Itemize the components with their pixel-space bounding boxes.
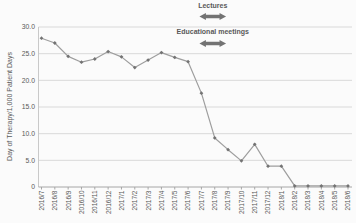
x-tick-label: 2017/4: [158, 190, 165, 210]
x-tick-label: 2016/9: [65, 190, 72, 210]
y-tick-label: 25.0: [22, 50, 35, 57]
x-tick-label: 2017/1: [118, 190, 125, 210]
y-tick-label: 10.0: [22, 130, 35, 137]
series-line: [42, 38, 349, 186]
x-tick-label: 2018/5: [331, 190, 338, 210]
x-tick-label: 2017/5: [171, 190, 178, 210]
x-tick-label: 2016/11: [91, 190, 98, 213]
chart-figure: 05.010.015.020.025.030.02016/72016/82016…: [0, 0, 356, 223]
y-tick-label: 0: [31, 183, 35, 190]
x-tick-label: 2017/12: [264, 190, 271, 214]
data-point-marker: [80, 60, 84, 64]
x-tick-label: 2016/7: [38, 190, 45, 210]
annotation-lectures-label: Lectures: [198, 1, 227, 10]
series-markers: [40, 36, 350, 188]
x-tick-label: 2017/11: [251, 190, 258, 213]
y-tick-label: 5.0: [26, 157, 36, 164]
x-tick-label: 2017/2: [131, 190, 138, 210]
x-tick-label: 2017/9: [224, 190, 231, 210]
x-tick-label: 2017/6: [184, 190, 191, 210]
x-tick-label: 2018/3: [304, 190, 311, 210]
data-point-marker: [186, 60, 190, 64]
x-tick-label: 2016/8: [51, 190, 58, 210]
x-tick-label: 2018/6: [344, 190, 351, 210]
data-point-marker: [40, 36, 44, 40]
y-tick-label: 20.0: [22, 77, 35, 84]
double-arrow-icon: [199, 13, 226, 20]
x-tick-label: 2018/2: [291, 190, 298, 210]
x-tick-label: 2018/4: [318, 190, 325, 210]
x-tick-label: 2017/3: [145, 190, 152, 210]
x-tick-label: 2017/8: [211, 190, 218, 210]
gridlines: [39, 27, 353, 160]
y-tick-label: 30.0: [22, 23, 35, 30]
y-axis-title: Day of Therapy/1,000 Patient Days: [4, 27, 15, 187]
x-tick-label: 2016/10: [78, 190, 85, 214]
x-tick-label: 2016/12: [105, 190, 112, 214]
annotation-educational-meetings-label: Educational meetings: [177, 27, 249, 36]
double-arrow-icon: [199, 40, 226, 47]
x-tick-label: 2017/7: [198, 190, 205, 210]
y-tick-labels: 05.010.015.020.025.030.0: [22, 23, 35, 190]
data-point-marker: [200, 91, 204, 95]
x-tick-labels: 2016/72016/82016/92016/102016/112016/122…: [38, 190, 352, 214]
x-tick-label: 2017/10: [238, 190, 245, 214]
x-tick-label: 2018/1: [278, 190, 285, 210]
y-tick-label: 15.0: [22, 103, 35, 110]
data-point-marker: [173, 56, 177, 60]
